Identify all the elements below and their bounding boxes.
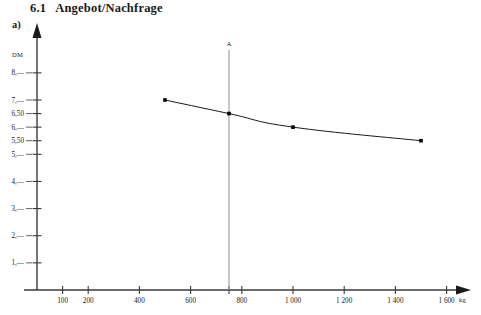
x-tick-label: 100 <box>57 297 68 305</box>
demand-curve-line <box>165 100 421 141</box>
x-axis-unit-label: kg <box>459 296 467 303</box>
x-tick-label: 800 <box>236 297 247 305</box>
demand-curve-group <box>163 98 423 142</box>
x-axis-ticks: 1002004006008001 0001 2001 4001 600 <box>57 286 455 305</box>
x-tick-label: 1 200 <box>336 297 353 305</box>
chart-page: 6.1Angebot/Nachfrage a) DM kg 1,—2,—3,—4… <box>0 0 481 315</box>
x-axis-arrowhead <box>456 286 471 295</box>
y-tick-label: 5,50 <box>11 137 24 145</box>
data-point-marker <box>419 139 423 143</box>
annotation-line-a: A <box>227 40 232 290</box>
y-tick-label: 5,— <box>11 151 24 159</box>
y-tick-label: 2,— <box>11 232 24 240</box>
data-point-marker <box>227 112 231 116</box>
y-tick-label: 1,— <box>11 259 24 267</box>
x-tick-label: 400 <box>134 297 145 305</box>
x-tick-label: 1 600 <box>439 297 456 305</box>
x-tick-label: 600 <box>185 297 196 305</box>
data-point-marker <box>291 125 295 129</box>
x-tick-label: 1 000 <box>285 297 302 305</box>
y-tick-label: 6,50 <box>11 110 24 118</box>
y-tick-label: 3,— <box>11 205 24 213</box>
vertical-marker-label: A <box>227 40 232 47</box>
y-tick-label: 8,— <box>11 69 24 77</box>
y-tick-label: 4,— <box>11 178 24 186</box>
y-axis-arrowhead <box>33 23 42 38</box>
supply-demand-chart: DM kg 1,—2,—3,—4,—5,—5,506,—6,507,—8,— 1… <box>0 0 481 315</box>
y-tick-label: 6,— <box>11 124 24 132</box>
data-point-marker <box>163 98 167 102</box>
x-tick-label: 200 <box>83 297 94 305</box>
y-axis-unit-label: DM <box>12 51 23 58</box>
y-tick-label: 7,— <box>11 97 24 105</box>
demand-curve-points <box>163 98 423 142</box>
x-tick-label: 1 400 <box>387 297 404 305</box>
